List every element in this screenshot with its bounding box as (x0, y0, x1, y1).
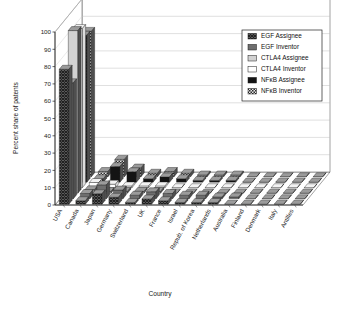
y-tick-label: 30 (44, 149, 51, 156)
y-axis-title: Percent share of patents (12, 81, 20, 154)
y-tick-label: 50 (44, 115, 51, 122)
y-tick-label: 40 (44, 132, 51, 139)
y-tick-label: 20 (44, 167, 51, 174)
x-tick-label: Japan (82, 207, 96, 226)
legend-label: CTLA4 Assignee (261, 54, 309, 62)
x-axis-title: Country (148, 290, 172, 298)
x-tick-label: Canada (63, 207, 80, 230)
x-tick-label: Italy (267, 207, 279, 221)
x-tick-label: Germany (95, 207, 114, 234)
legend-swatch (248, 55, 257, 61)
y-tick-label: 0 (48, 201, 52, 208)
legend-swatch (248, 44, 257, 50)
legend-swatch (248, 88, 257, 94)
y-tick-label: 60 (44, 97, 51, 104)
x-tick-label: Finland (229, 207, 245, 229)
legend-swatch (248, 66, 257, 72)
y-tick-label: 90 (44, 46, 51, 53)
y-tick-label: 100 (41, 28, 52, 35)
legend-label: EGF Inventor (261, 43, 300, 50)
legend-swatch (248, 77, 257, 83)
x-tick-label: France (147, 207, 162, 228)
x-tick-label: Australia (211, 207, 229, 232)
legend-label: NFκB Inventor (261, 87, 303, 94)
y-tick-label: 70 (44, 80, 51, 87)
y-tick-label: 80 (44, 63, 51, 70)
legend-label: EGF Assignee (261, 32, 302, 40)
bar-chart-3d: 0102030405060708090100 USACanadaJapanGer… (0, 0, 344, 309)
chart-figure: 0102030405060708090100 USACanadaJapanGer… (0, 0, 344, 309)
y-tick-label: 10 (44, 184, 51, 191)
x-axis-category-labels: USACanadaJapanGermanySwitzerlandUKFrance… (51, 205, 296, 251)
x-tick-label: Israel (166, 208, 179, 225)
x-tick-label: Denmark (244, 207, 262, 233)
legend-label: CTLA4 Inventor (261, 65, 307, 72)
legend-swatch (248, 33, 257, 39)
x-tick-label: UK (136, 207, 147, 219)
chart-legend: EGF AssigneeEGF InventorCTLA4 AssigneeCT… (242, 30, 322, 101)
legend-label: NFκB Assignee (261, 76, 305, 84)
x-tick-label: Antilles (279, 208, 295, 229)
x-tick-label: USA (51, 207, 64, 222)
